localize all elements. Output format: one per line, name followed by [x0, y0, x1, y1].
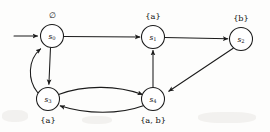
edge-s4-to-s3: [60, 106, 143, 113]
state-subscript-s0: 0: [52, 36, 55, 42]
edge-s0-to-s3: [49, 48, 51, 85]
state-node-s3[interactable]: s3 {a}: [37, 88, 60, 126]
edge-s3-to-s0: [30, 49, 40, 93]
proposition-label-s2: {b}: [233, 13, 249, 23]
edge-s1-to-s2: [165, 38, 228, 39]
proposition-label-s3: {a}: [40, 115, 55, 125]
state-node-s2[interactable]: s2 {b}: [230, 13, 253, 51]
state-subscript-s3: 3: [48, 99, 51, 105]
proposition-label-s0: ∅: [49, 10, 56, 20]
proposition-label-s4: {a, b}: [140, 115, 166, 125]
state-node-s1[interactable]: s1 {a}: [142, 11, 165, 49]
automaton-canvas: s0 ∅ s1 {a} s2 {b}: [0, 0, 270, 132]
state-subscript-s1: 1: [153, 37, 156, 43]
state-node-s0[interactable]: s0 ∅: [41, 10, 64, 48]
node-layer: s0 ∅ s1 {a} s2 {b}: [37, 10, 253, 125]
proposition-label-s1: {a}: [145, 11, 160, 21]
edge-s2-to-s4: [169, 48, 233, 91]
edge-s0-to-s1: [64, 36, 140, 37]
state-transition-diagram: s0 ∅ s1 {a} s2 {b}: [0, 0, 270, 132]
edge-s3-to-s4: [59, 87, 143, 94]
state-subscript-s2: 2: [241, 39, 244, 45]
state-node-s4[interactable]: s4 {a, b}: [140, 88, 166, 126]
